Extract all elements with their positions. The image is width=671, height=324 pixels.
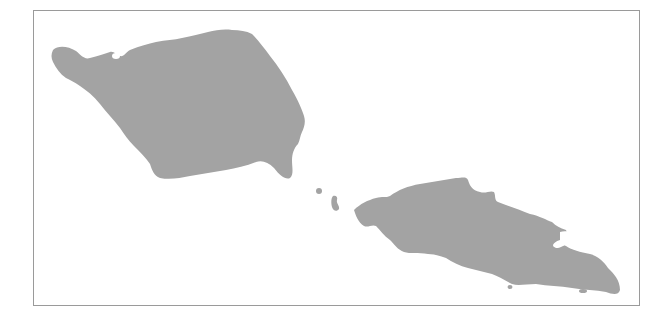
- islet-apolima: [316, 188, 322, 194]
- island-savaii: [52, 30, 305, 179]
- island-upolu: [354, 178, 620, 295]
- map-canvas: [0, 0, 671, 324]
- islet-nuutele: [579, 289, 587, 293]
- islet-south: [508, 285, 513, 289]
- islet-manono: [331, 196, 339, 211]
